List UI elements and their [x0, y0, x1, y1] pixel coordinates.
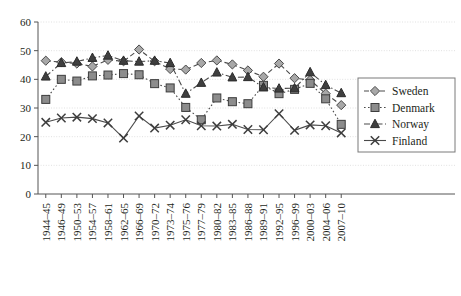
datapoint-sweden-10 — [197, 58, 206, 67]
datapoint-denmark-18 — [322, 95, 330, 103]
datapoint-finland-0 — [42, 118, 50, 126]
datapoint-finland-6 — [135, 112, 143, 120]
line-chart: 01020304050601944–451946–491950–531954–5… — [0, 0, 461, 296]
chart-container: 01020304050601944–451946–491950–531954–5… — [0, 0, 461, 296]
datapoint-sweden-6 — [134, 45, 143, 54]
y-axis-labels: 0102030405060 — [20, 16, 38, 200]
x-tick-label: 2007–10 — [335, 203, 347, 242]
datapoint-norway-0 — [41, 72, 50, 80]
y-tick-label: 60 — [20, 16, 32, 28]
x-tick-label: 1970–72 — [149, 203, 161, 242]
x-tick-label: 1992–95 — [273, 203, 285, 242]
datapoint-denmark-2 — [73, 77, 81, 85]
x-tick-label: 1986–88 — [242, 203, 254, 242]
datapoint-finland-9 — [182, 116, 190, 124]
datapoint-norway-13 — [244, 72, 253, 80]
datapoint-sweden-0 — [41, 56, 50, 65]
datapoint-finland-4 — [104, 119, 112, 127]
x-tick-label: 2000–03 — [304, 203, 316, 242]
x-tick-label: 1962–65 — [118, 203, 130, 242]
y-tick-label: 50 — [20, 45, 32, 57]
legend-marker-square — [371, 104, 379, 112]
x-tick-label: 1996–99 — [289, 203, 301, 242]
y-tick-label: 40 — [20, 73, 32, 85]
datapoint-denmark-19 — [337, 120, 345, 128]
legend-label: Norway — [392, 118, 429, 131]
x-tick-label: 2004–06 — [320, 203, 332, 242]
y-tick-label: 10 — [20, 159, 32, 171]
datapoint-denmark-11 — [213, 94, 221, 102]
datapoint-finland-5 — [119, 134, 127, 142]
legend-item-denmark[interactable]: Denmark — [364, 102, 435, 114]
datapoint-denmark-13 — [244, 100, 252, 108]
x-tick-label: 1973–74 — [164, 203, 176, 242]
datapoint-denmark-4 — [104, 71, 112, 79]
series-line-finland — [46, 114, 341, 138]
datapoint-denmark-3 — [88, 72, 96, 80]
x-tick-label: 1975–76 — [180, 203, 192, 242]
x-tick-label: 1950–53 — [71, 203, 83, 242]
y-tick-label: 0 — [26, 188, 32, 200]
datapoint-finland-19 — [337, 129, 345, 137]
x-axis-labels: 1944–451946–491950–531954–571958–611962–… — [40, 194, 347, 242]
datapoint-denmark-8 — [166, 84, 174, 92]
datapoint-norway-11 — [212, 68, 221, 76]
datapoint-denmark-12 — [228, 98, 236, 106]
datapoint-denmark-6 — [135, 71, 143, 79]
x-tick-label: 1958–61 — [102, 203, 114, 242]
datapoint-denmark-7 — [151, 80, 159, 88]
datapoint-denmark-9 — [182, 103, 190, 111]
legend-label: Denmark — [392, 102, 435, 114]
datapoint-norway-18 — [321, 80, 330, 88]
datapoint-norway-19 — [337, 88, 346, 96]
legend-label: Finland — [392, 135, 427, 147]
series-finland — [42, 110, 346, 143]
legend: SwedenDenmarkNorwayFinland — [358, 78, 455, 152]
datapoint-denmark-5 — [120, 70, 128, 78]
datapoint-norway-9 — [181, 89, 190, 97]
x-tick-label: 1944–45 — [40, 203, 52, 242]
datapoint-denmark-17 — [306, 79, 314, 87]
datapoint-sweden-14 — [259, 72, 268, 81]
x-tick-label: 1980–82 — [211, 203, 223, 242]
datapoint-finland-15 — [275, 110, 283, 118]
datapoint-sweden-16 — [290, 74, 299, 83]
series-norway — [41, 51, 345, 98]
x-tick-label: 1989–91 — [257, 203, 269, 242]
datapoint-finland-16 — [290, 126, 298, 134]
datapoint-sweden-12 — [228, 60, 237, 69]
legend-label: Sweden — [392, 85, 429, 97]
x-tick-label: 1983–85 — [226, 203, 238, 242]
x-tick-label: 1946–49 — [55, 203, 67, 242]
y-tick-label: 20 — [20, 131, 32, 143]
datapoint-sweden-9 — [181, 65, 190, 74]
x-tick-label: 1954–57 — [86, 203, 98, 242]
datapoint-norway-10 — [197, 78, 206, 86]
x-tick-label: 1966–69 — [133, 203, 145, 242]
y-tick-label: 30 — [20, 102, 32, 114]
datapoint-sweden-11 — [212, 56, 221, 65]
datapoint-norway-4 — [104, 51, 113, 59]
datapoint-sweden-19 — [337, 101, 346, 110]
datapoint-denmark-1 — [57, 75, 65, 83]
datapoint-norway-17 — [306, 67, 315, 75]
x-tick-label: 1977–79 — [195, 203, 207, 242]
datapoint-sweden-3 — [88, 62, 97, 71]
datapoint-denmark-0 — [42, 95, 50, 103]
series-sweden — [41, 45, 346, 110]
